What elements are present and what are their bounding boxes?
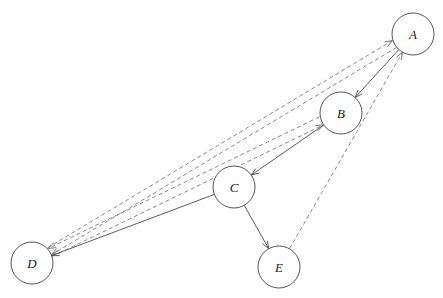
arrowhead-a-d — [52, 248, 60, 254]
node-d[interactable]: D — [11, 242, 53, 284]
edge-e-a — [289, 52, 402, 249]
edge-c-e — [244, 205, 268, 248]
edge-line-d-b — [52, 125, 323, 257]
edge-line-a-b — [355, 50, 399, 98]
edge-line-c-d — [52, 194, 215, 255]
edge-line-b-d — [48, 117, 319, 249]
graph-diagram-canvas: ABCDE — [0, 0, 443, 298]
arrowhead-d-a — [385, 41, 393, 47]
edge-b-d — [48, 117, 319, 249]
edge-a-b — [355, 50, 399, 98]
node-label-b: B — [337, 106, 345, 121]
node-e[interactable]: E — [258, 246, 300, 288]
node-c[interactable]: C — [213, 166, 255, 208]
node-a[interactable]: A — [392, 13, 434, 55]
edge-d-b — [52, 125, 323, 257]
arrowhead-b-c — [251, 168, 259, 175]
node-label-e: E — [274, 260, 283, 275]
graph-svg: ABCDE — [0, 0, 443, 298]
edge-d-a — [47, 41, 392, 248]
node-label-d: D — [26, 256, 37, 271]
arrowhead-e-a — [396, 52, 402, 60]
edge-line-d-a — [47, 41, 392, 248]
edge-c-d — [52, 194, 215, 255]
edge-layer — [47, 41, 402, 257]
node-label-c: C — [230, 180, 239, 195]
edge-line-e-a — [289, 52, 402, 249]
edge-line-c-e — [244, 205, 268, 248]
arrowhead-c-e — [263, 241, 269, 249]
edge-line-a-d — [52, 47, 397, 254]
edge-a-d — [52, 47, 397, 254]
node-label-a: A — [408, 27, 417, 42]
node-b[interactable]: B — [320, 92, 362, 134]
